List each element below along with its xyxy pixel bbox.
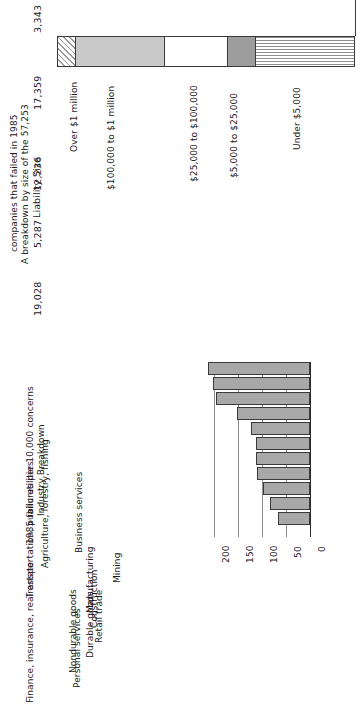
scanned-chart-page: Liability Size A breakdown by size of th…: [0, 0, 361, 713]
industry-bar-transportation: [237, 407, 310, 420]
industry-category-label: Durable goods: [86, 591, 95, 658]
liability-value-label: 12,236: [33, 157, 43, 191]
liability-value-label: 19,028: [33, 282, 43, 316]
liability-category-label: $5,000 to $25,000: [230, 93, 239, 178]
industry-bar-retail-trade: [256, 452, 310, 465]
liability-chart-subtitle-line1: A breakdown by size of the 57,253: [21, 104, 30, 264]
liability-category-label: $25,000 to $100,000: [190, 85, 199, 182]
industry-bar-personal-services: [270, 497, 310, 510]
industry-bar-agriculture: [213, 377, 310, 390]
liability-segment-25k-to-100k: [165, 37, 228, 66]
liability-chart-frame-edge: [355, 0, 356, 36]
industry-category-label: Finance, insurance, real estate: [26, 562, 35, 703]
liability-value-label: 5,287: [33, 220, 43, 248]
liability-value-label: 17,359: [33, 76, 43, 110]
industry-bar-manufacturing: [251, 422, 310, 435]
industry-bar-durable-goods: [257, 467, 310, 480]
industry-category-label: Business services: [75, 472, 84, 553]
industry-bar-finance-insurance: [278, 512, 310, 525]
liability-category-label: $100,000 to $1 million: [107, 86, 116, 190]
axis-tick-label-200: 200: [222, 545, 231, 563]
industry-breakdown-chart: Industry Breakdown 1985 failures per 10,…: [0, 356, 361, 713]
axis-tick-label-50: 50: [294, 546, 303, 558]
liability-value-label: 3,343: [33, 5, 43, 33]
axis-tick-label-100: 100: [270, 545, 279, 563]
industry-bar-construction: [256, 437, 310, 450]
liability-category-label: Under $5,000: [293, 87, 302, 150]
liability-segment-under-5k: [256, 37, 354, 66]
liability-segment-100k-to-1m: [76, 37, 165, 66]
industry-category-label: Mining: [113, 553, 122, 584]
axis-tick-label-150: 150: [246, 545, 255, 563]
liability-stacked-bar: [57, 36, 355, 67]
liability-chart-subtitle-line2: companies that failed in 1985: [10, 114, 19, 252]
liability-segment-over-1-million: [58, 37, 76, 66]
industry-category-label: Agriculture, forestry, fishing: [41, 439, 50, 568]
axis-tick-label-0: 0: [318, 546, 327, 552]
industry-category-label: Retail trade: [95, 590, 104, 644]
industry-bar-business-services: [208, 362, 310, 375]
industry-bar-nondurable-goods: [263, 482, 310, 495]
industry-bar-mining: [216, 392, 310, 405]
industry-category-label: Personal services: [73, 608, 82, 688]
industry-axis-baseline: [310, 362, 311, 537]
liability-category-label: Over $1 million: [70, 82, 79, 152]
liability-segment-5k-to-25k: [228, 37, 256, 66]
